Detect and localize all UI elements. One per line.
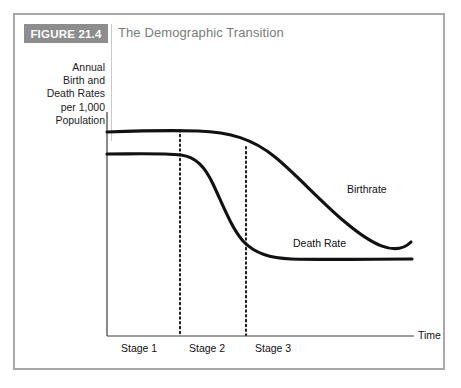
time-axis-label: Time	[418, 329, 441, 341]
stage-1-label: Stage 1	[121, 342, 157, 354]
stage-3-label: Stage 3	[255, 342, 291, 354]
death-rate-curve	[107, 154, 412, 260]
figure-frame: FIGURE 21.4 The Demographic Transition A…	[13, 13, 445, 370]
stage-2-label: Stage 2	[189, 342, 225, 354]
figure-container: FIGURE 21.4 The Demographic Transition A…	[0, 0, 461, 388]
birthrate-label: Birthrate	[347, 183, 387, 195]
death-rate-label: Death Rate	[293, 237, 346, 249]
